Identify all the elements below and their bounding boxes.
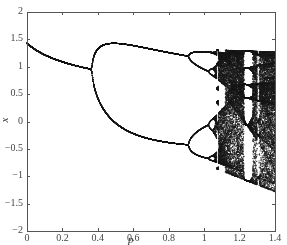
- y-tick-label: −1.5: [1, 198, 23, 208]
- y-tick-label: 0.5: [1, 88, 23, 98]
- y-tick-label: 1: [1, 61, 23, 71]
- x-tick-label: 0.2: [50, 233, 74, 243]
- y-tick-label: 2: [1, 6, 23, 16]
- y-tick-label: −1: [1, 170, 23, 180]
- x-tick-label: 0.4: [86, 233, 110, 243]
- x-axis-label: p: [128, 233, 134, 245]
- y-tick-label: −0.5: [1, 143, 23, 153]
- y-axis-label: x: [0, 118, 10, 123]
- x-tick-label: 1: [192, 233, 216, 243]
- x-tick-label: 0.8: [157, 233, 181, 243]
- x-tick-label: 1.2: [228, 233, 252, 243]
- y-tick-label: 1.5: [1, 33, 23, 43]
- x-tick-label: 0: [15, 233, 39, 243]
- x-tick-label: 1.4: [263, 233, 287, 243]
